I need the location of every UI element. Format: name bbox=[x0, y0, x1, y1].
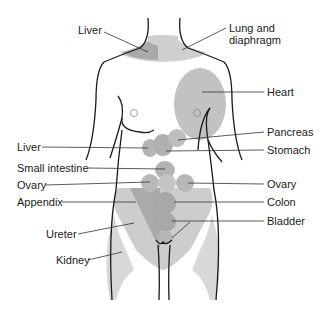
label-ovary-left: Ovary bbox=[17, 179, 46, 191]
label-heart: Heart bbox=[267, 86, 294, 98]
label-lung-diaphragm-line1: Lung and bbox=[229, 22, 275, 34]
label-liver-mid: Liver bbox=[17, 141, 41, 153]
region-neck-shoulders bbox=[120, 35, 206, 62]
label-ureter: Ureter bbox=[46, 228, 77, 240]
region-colon bbox=[154, 192, 176, 214]
leader-liver-mid bbox=[42, 147, 148, 148]
label-stomach: Stomach bbox=[267, 144, 310, 156]
leader-ovary-left bbox=[45, 182, 150, 185]
region-center-upper bbox=[158, 174, 176, 192]
label-lung-diaphragm-line2: diaphragm bbox=[229, 34, 281, 46]
label-liver-top: Liver bbox=[78, 24, 102, 36]
leader-lung-diaphragm bbox=[182, 28, 226, 50]
label-ovary-right: Ovary bbox=[267, 178, 296, 190]
leader-liver-top bbox=[104, 32, 148, 52]
label-small-intestine: Small intestine bbox=[17, 162, 89, 174]
label-appendix: Appendix bbox=[17, 196, 63, 208]
referred-pain-diagram bbox=[0, 0, 326, 319]
region-bladder bbox=[154, 212, 176, 232]
leader-stomach bbox=[166, 150, 264, 151]
label-bladder: Bladder bbox=[267, 215, 305, 227]
region-ovary-left bbox=[141, 174, 159, 192]
region-liver-shoulder bbox=[122, 42, 158, 60]
label-pancreas: Pancreas bbox=[267, 126, 313, 138]
region-heart bbox=[174, 68, 226, 140]
leader-ovary-right bbox=[188, 183, 264, 184]
label-kidney: Kidney bbox=[56, 254, 90, 266]
shaded-regions bbox=[106, 35, 226, 300]
label-colon: Colon bbox=[267, 196, 296, 208]
region-pancreas bbox=[168, 129, 186, 147]
leader-small-intestine bbox=[88, 168, 165, 169]
